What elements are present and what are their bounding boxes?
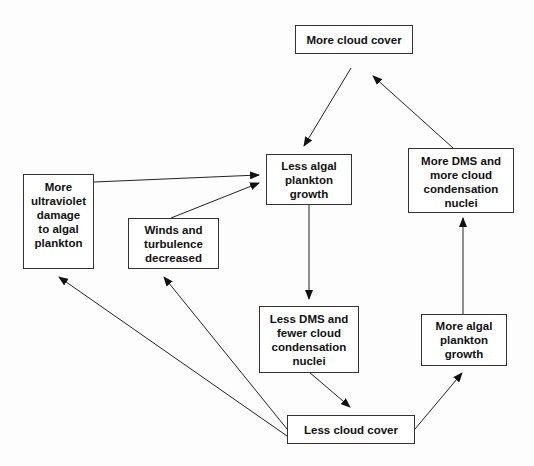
- arrow-less-dms-to-less-cloud: [309, 372, 350, 407]
- arrow-uv-to-less-algal: [94, 175, 259, 182]
- node-label: Winds and turbulence decreased: [144, 223, 203, 265]
- node-more-algal-plankton-growth: More algal plankton growth: [421, 314, 507, 366]
- node-less-dms: Less DMS and fewer cloud condensation nu…: [259, 306, 359, 373]
- node-label: More algal plankton growth: [436, 319, 493, 361]
- node-more-dms: More DMS and more cloud condensation nuc…: [408, 148, 514, 213]
- node-more-uv-damage: More ultraviolet damage to algal plankto…: [23, 174, 94, 269]
- feedback-loop-diagram: More cloud cover Less algal plankton gro…: [0, 0, 534, 466]
- arrow-winds-to-less-algal: [171, 183, 259, 218]
- node-label: Less algal plankton growth: [281, 159, 337, 201]
- node-winds-turbulence-decreased: Winds and turbulence decreased: [128, 218, 219, 269]
- arrow-less-cloud-to-more-algal: [415, 373, 462, 429]
- node-less-algal-plankton-growth: Less algal plankton growth: [266, 154, 352, 205]
- node-label: More ultraviolet damage to algal plankto…: [31, 180, 86, 268]
- node-label: Less cloud cover: [304, 423, 398, 437]
- arrow-more-dms-to-more-cloud: [373, 76, 453, 148]
- node-label: Less DMS and fewer cloud condensation nu…: [270, 312, 349, 368]
- node-less-cloud-cover: Less cloud cover: [287, 415, 415, 444]
- node-label: More DMS and more cloud condensation nuc…: [421, 154, 501, 212]
- node-label: More cloud cover: [306, 33, 401, 47]
- node-more-cloud-cover: More cloud cover: [295, 25, 413, 54]
- arrow-less-cloud-to-uv: [59, 277, 287, 436]
- arrow-more-cloud-to-less-algal: [304, 68, 351, 146]
